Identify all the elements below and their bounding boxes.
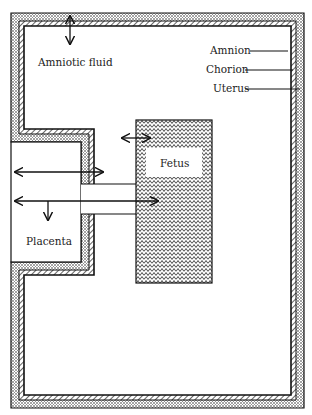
umbilical-cord [81,184,137,214]
amnion-label: Amnion [209,44,251,56]
uterus-label: Uterus [213,82,249,94]
placenta-label: Placenta [26,235,72,247]
fetus-label: Fetus [160,157,189,169]
fetal-membranes-diagram: Placenta Fetus Amniotic fluid Amnion Cho… [0,0,312,415]
chorion-label: Chorion [206,63,249,75]
amniotic-fluid-label: Amniotic fluid [37,56,113,68]
placenta: Placenta [11,142,81,262]
